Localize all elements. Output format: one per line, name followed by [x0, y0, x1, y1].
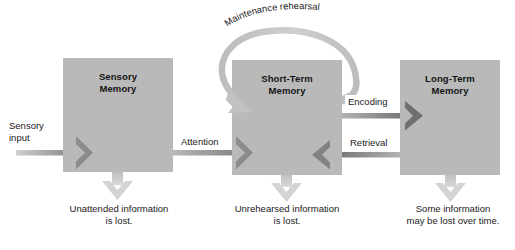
- label-sensory-input: Sensory input: [6, 119, 47, 145]
- caption-some-information-lost-over-time: Some information may be lost over time.: [378, 203, 515, 228]
- caption-unattended-information-lost: Unattended information is lost.: [40, 203, 198, 228]
- caption-unrehearsed-information-lost: Unrehearsed information is lost.: [208, 203, 366, 228]
- label-encoding: Encoding: [345, 95, 391, 109]
- label-retrieval: Retrieval: [347, 136, 391, 150]
- label-attention: Attention: [178, 135, 222, 149]
- memory-model-diagram: Sensory Memory Short-Term Memory Long-Te…: [0, 0, 515, 250]
